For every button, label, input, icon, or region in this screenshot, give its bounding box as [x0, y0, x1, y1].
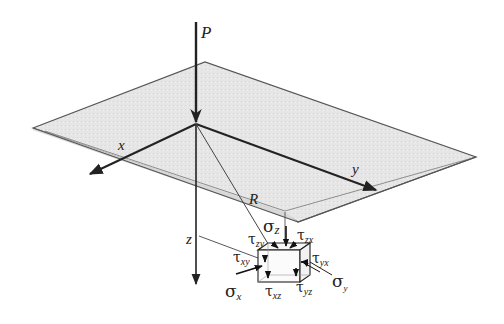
axis-label-z: z — [185, 231, 192, 247]
axis-label-x: x — [117, 137, 125, 153]
label-tau-yx: τyx — [312, 250, 329, 268]
axis-label-y: y — [350, 161, 359, 177]
diagram-canvas: P x y z R σz τzy τzx τxy τyx σx τx — [0, 0, 504, 324]
label-tau-zx: τzx — [297, 227, 314, 245]
load-label-p: P — [200, 23, 211, 42]
label-sigma-y: σy — [332, 271, 348, 293]
label-tau-xz: τxz — [265, 283, 281, 301]
label-sigma-x: σx — [225, 281, 242, 302]
label-sigma-z: σz — [263, 216, 280, 237]
distance-label-r: R — [248, 191, 258, 207]
label-tau-yz: τyz — [296, 279, 312, 297]
